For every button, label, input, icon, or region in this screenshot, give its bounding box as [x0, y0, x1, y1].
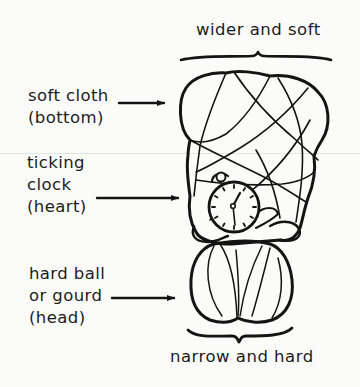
figure-illustration: [0, 0, 360, 387]
diagram-page: wider and soft narrow and hard soft clot…: [0, 0, 360, 387]
clock-icon: [209, 173, 259, 233]
gourd: [191, 241, 292, 322]
curly-brace-icon: [181, 52, 331, 60]
curly-brace-icon: [188, 328, 292, 342]
